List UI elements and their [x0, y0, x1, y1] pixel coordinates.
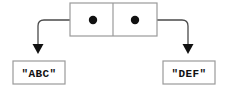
car-pointer-arrowhead	[33, 44, 44, 54]
cons-cell	[70, 3, 157, 36]
cdr-pointer-dot	[131, 16, 139, 24]
value-box-label-abc: "ABC"	[21, 68, 56, 80]
diagram-canvas: "ABC" "DEF"	[0, 0, 227, 89]
value-box-abc: "ABC"	[13, 61, 65, 84]
value-box-label-def: "DEF"	[171, 68, 206, 80]
car-pointer-dot	[89, 16, 97, 24]
cdr-pointer-arrowhead	[183, 44, 194, 54]
cons-cell-diagram: "ABC" "DEF"	[0, 0, 227, 89]
value-box-def: "DEF"	[163, 61, 215, 84]
